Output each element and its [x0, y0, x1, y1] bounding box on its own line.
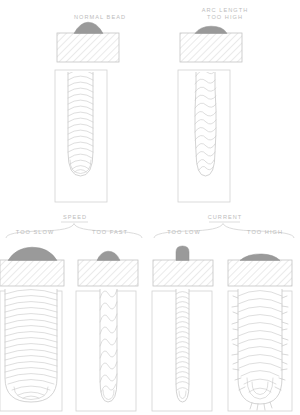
label-current-too-high: TOO HIGH: [235, 229, 295, 236]
label-current-too-low: TOO LOW: [155, 229, 213, 236]
panel-current-too-high: [228, 254, 292, 411]
too-high-text: TOO HIGH: [247, 229, 283, 235]
panel-speed-too-slow: [0, 247, 64, 411]
bead-profile-too-fast: [97, 251, 120, 260]
bead-top-view-arc-high: [195, 69, 216, 176]
current-title-text: CURRENT: [208, 214, 243, 220]
panel-arc-length-too-high: [150, 0, 300, 210]
panel-normal-bead: [0, 0, 160, 210]
label-speed-title: SPEED: [49, 214, 101, 221]
cross-section-arc-high: [180, 26, 242, 62]
bottom-row: [0, 244, 300, 415]
bead-top-view-normal: [68, 69, 93, 176]
cross-section-normal: [57, 22, 119, 62]
too-slow-text: TOO SLOW: [16, 229, 54, 235]
bead-profile-too-high: [240, 254, 280, 260]
panel-current-too-low: [152, 246, 213, 411]
bead-profile-normal: [74, 22, 103, 33]
label-speed-too-slow: TOO SLOW: [5, 229, 65, 236]
label-current-title: CURRENT: [199, 214, 251, 221]
too-low-text: TOO LOW: [167, 229, 201, 235]
panel-speed-too-fast: [76, 251, 138, 411]
speed-title-text: SPEED: [63, 214, 87, 220]
label-speed-too-fast: TOO FAST: [80, 229, 140, 236]
bead-profile-too-slow: [8, 247, 57, 260]
too-fast-text: TOO FAST: [92, 229, 128, 235]
bead-profile-too-low: [176, 246, 189, 260]
bead-profile-arc-high: [195, 26, 227, 33]
